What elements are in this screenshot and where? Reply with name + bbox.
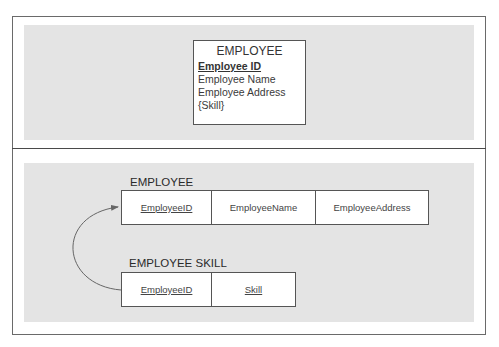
foreign-key-arrow-icon: [0, 0, 499, 347]
